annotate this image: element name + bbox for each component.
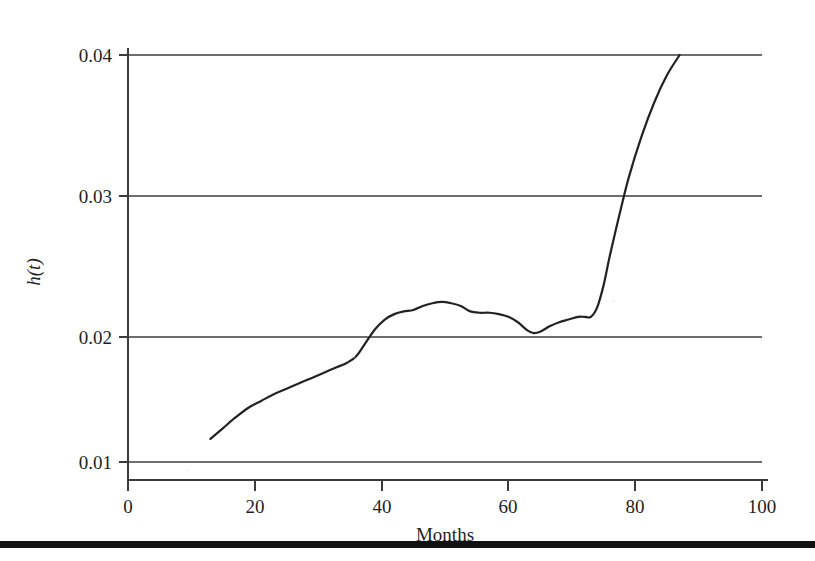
x-tick-label-80: 80 (626, 496, 645, 517)
x-tick-label-0: 0 (123, 496, 133, 517)
y-tick-label-0-03: 0.03 (79, 186, 112, 207)
bottom-black-rule (0, 541, 815, 548)
y-tick-label-0-04: 0.04 (79, 45, 113, 66)
x-tick-label-20: 20 (246, 496, 265, 517)
x-tick-label-40: 40 (373, 496, 392, 517)
chart-background (0, 0, 815, 561)
x-tick-label-100: 100 (748, 496, 777, 517)
y-tick-label-0-01: 0.01 (79, 452, 112, 473)
x-tick-label-60: 60 (499, 496, 518, 517)
y-axis-title: h(t) (23, 258, 45, 285)
hazard-function-line-chart: 0.04 0.03 0.02 0.01 0 20 40 60 80 100 Mo… (0, 0, 815, 561)
y-tick-label-0-02: 0.02 (79, 327, 112, 348)
scan-speck (612, 300, 615, 302)
scan-speck (186, 469, 188, 471)
figure-root: 0.04 0.03 0.02 0.01 0 20 40 60 80 100 Mo… (0, 0, 815, 561)
scan-speck (352, 355, 355, 358)
